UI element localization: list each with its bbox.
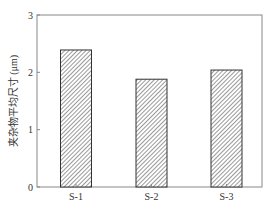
y-tick-label: 3 xyxy=(28,10,33,21)
y-tick-label: 2 xyxy=(28,67,33,78)
y-tick-label: 0 xyxy=(28,182,33,193)
bars xyxy=(61,50,243,187)
x-tick-label: S-1 xyxy=(69,191,83,202)
bar-s-3 xyxy=(211,70,242,187)
y-axis-label: 夹杂物平均尺寸 (μm) xyxy=(7,55,20,147)
bar-s-2 xyxy=(136,79,167,187)
bar-chart: 0123 S-1S-2S-3 夹杂物平均尺寸 (μm) xyxy=(0,0,280,215)
y-axis-ticks: 0123 xyxy=(28,10,40,193)
x-tick-label: S-2 xyxy=(145,191,159,202)
bar-s-1 xyxy=(61,50,92,187)
y-tick-label: 1 xyxy=(28,124,33,135)
x-tick-label: S-3 xyxy=(220,191,234,202)
